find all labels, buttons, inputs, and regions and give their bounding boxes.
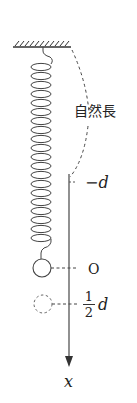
half-d-symbol: d — [98, 297, 108, 313]
x-axis — [65, 174, 73, 367]
half-numerator: 1 — [85, 289, 93, 304]
natural-length-label: 自然長 — [74, 104, 116, 118]
origin-label: O — [88, 262, 99, 276]
mass-displaced — [34, 295, 52, 313]
spring — [31, 47, 52, 259]
spring-diagram — [0, 0, 137, 403]
minus-d-label: −d — [85, 175, 109, 191]
half-fraction: 1 2 — [83, 290, 95, 319]
x-axis-label: x — [64, 374, 73, 390]
half-denominator: 2 — [85, 305, 93, 320]
ceiling-support — [13, 41, 71, 47]
mass-equilibrium — [33, 259, 51, 277]
